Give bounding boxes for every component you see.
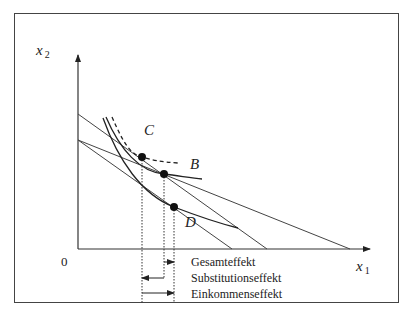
y-axis-label: x2 bbox=[36, 42, 50, 60]
point-d bbox=[170, 203, 178, 211]
budget-line-new bbox=[78, 140, 350, 249]
point-label-d: D bbox=[185, 214, 196, 231]
origin-label: 0 bbox=[61, 254, 68, 270]
point-c bbox=[138, 153, 146, 161]
point-label-b: B bbox=[190, 156, 199, 173]
budget-line-initial bbox=[78, 114, 267, 249]
point-label-c: C bbox=[144, 122, 154, 139]
legend-substitutionseffekt: Substitutionseffekt bbox=[191, 271, 281, 286]
effect-arrows bbox=[142, 262, 174, 293]
axes bbox=[78, 55, 370, 249]
indifference-curve-low bbox=[103, 118, 238, 228]
x-axis-label: x1 bbox=[356, 258, 370, 276]
point-b bbox=[160, 170, 168, 178]
budget-lines bbox=[78, 114, 350, 249]
legend-gesamteffekt: Gesamteffekt bbox=[191, 255, 255, 270]
legend-einkommenseffekt: Einkommenseffekt bbox=[191, 287, 282, 302]
budget-line-compensated bbox=[78, 140, 232, 249]
